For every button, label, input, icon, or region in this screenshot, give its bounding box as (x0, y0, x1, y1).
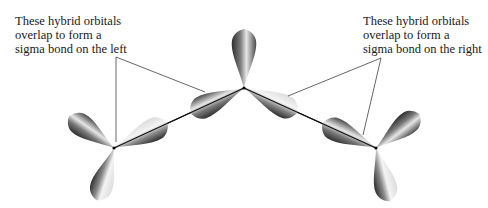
left-sigma-bond-label: These hybrid orbitals overlap to form a … (15, 14, 127, 56)
left-atom-orbitals (62, 107, 172, 204)
center-atom-orbitals (186, 29, 303, 123)
label-line: These hybrid orbitals (363, 14, 482, 28)
label-line: These hybrid orbitals (15, 14, 127, 28)
sp2-orbital-diagram: These hybrid orbitals overlap to form a … (0, 0, 488, 208)
label-line: overlap to form a (363, 28, 482, 42)
label-line: overlap to form a (15, 28, 127, 42)
label-line: sigma bond on the left (15, 42, 127, 56)
right-sigma-bond-label: These hybrid orbitals overlap to form a … (363, 14, 482, 56)
label-line: sigma bond on the right (363, 42, 482, 56)
right-atom-orbitals (318, 105, 427, 204)
